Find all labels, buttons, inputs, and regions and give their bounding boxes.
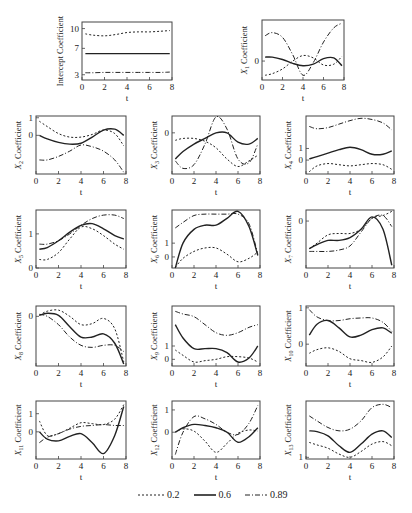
plot-frame: [306, 210, 394, 268]
x-tick-label: 2: [192, 176, 197, 186]
x-tick-label: 0: [34, 461, 39, 471]
x-tick-label: 8: [124, 461, 129, 471]
panel-x2: 02468t10X2 Coefficient: [13, 113, 129, 197]
legend-label: 0.89: [270, 489, 288, 500]
x-tick-label: 8: [124, 176, 129, 186]
x-tick-label: 2: [192, 270, 197, 280]
plot-frame: [36, 306, 126, 366]
x-tick-label: 2: [192, 461, 197, 471]
x-tick-label: 0: [170, 461, 175, 471]
series-line-0.2: [175, 138, 257, 166]
dotted-line-icon: [138, 492, 164, 498]
y-axis-label: X4 Coefficient: [283, 120, 294, 170]
panel-x12: 02468t10X12 Coefficient: [149, 401, 263, 482]
x-tick-label: 2: [102, 82, 107, 92]
y-tick-label: 0: [299, 339, 304, 349]
y-tick-label: 1: [299, 452, 304, 462]
y-tick-label: 0: [165, 252, 170, 262]
x-tick-label: 0: [304, 461, 309, 471]
y-axis-label: X7 Coefficient: [283, 214, 294, 264]
x-tick-label: 0: [170, 176, 175, 186]
y-tick-label: 1: [165, 238, 170, 248]
x-tick-label: 4: [348, 176, 353, 186]
y-axis-label: X8 Coefficient: [13, 311, 24, 361]
series-line-0.6: [39, 406, 123, 453]
y-tick-label: 1: [299, 143, 304, 153]
y-tick-label: 0: [299, 216, 304, 226]
x-tick-label: 6: [101, 270, 106, 280]
y-tick-label: 0: [29, 427, 34, 437]
y-tick-label: 0: [165, 128, 170, 138]
x-tick-label: 6: [321, 82, 326, 92]
panel-x5: 02468t10X5 Coefficient: [13, 210, 129, 291]
panel-x6: 02468t10X6 Coefficient: [149, 210, 263, 291]
x-tick-label: 8: [258, 270, 263, 280]
x-tick-label: 2: [56, 461, 61, 471]
x-tick-label: 6: [236, 461, 241, 471]
series-line-0.2: [309, 442, 392, 458]
x-tick-label: 2: [56, 368, 61, 378]
x-tick-label: 8: [392, 461, 397, 471]
x-tick-label: 8: [258, 368, 263, 378]
y-axis-label: X2 Coefficient: [13, 120, 24, 170]
series-line-0.6: [39, 313, 123, 364]
x-tick-label: 2: [326, 270, 331, 280]
x-tick-label: 4: [348, 461, 353, 471]
x-tick-label: 0: [170, 270, 175, 280]
series-line-0.89: [309, 118, 392, 130]
y-tick-label: 1: [29, 229, 34, 239]
x-tick-label: 0: [80, 82, 85, 92]
x-tick-label: 0: [304, 368, 309, 378]
y-tick-label: 0: [165, 354, 170, 364]
x-tick-label: 0: [170, 368, 175, 378]
y-axis-label: X9 Coefficient: [149, 311, 160, 361]
series-line-0.6: [175, 424, 257, 442]
plot-frame: [82, 22, 172, 80]
x-tick-label: 0: [34, 368, 39, 378]
panel-x13: 02468t1X13 Coefficient: [283, 401, 397, 482]
x-tick-label: 8: [124, 368, 129, 378]
x-axis-label: t: [215, 187, 218, 197]
series-line-0.6: [265, 57, 342, 66]
x-axis-label: t: [349, 187, 352, 197]
plot-frame: [306, 306, 394, 366]
x-axis-label: t: [80, 379, 83, 389]
x-tick-label: 4: [214, 270, 219, 280]
x-tick-label: 2: [192, 368, 197, 378]
x-tick-label: 8: [258, 176, 263, 186]
x-tick-label: 8: [124, 270, 129, 280]
x-axis-label: t: [302, 93, 305, 103]
x-axis-label: t: [215, 281, 218, 291]
legend-item-0.2: 0.2: [138, 489, 180, 500]
panel-intercept: 02468t3710Intercept Coefficient: [55, 15, 175, 103]
x-tick-label: 6: [236, 270, 241, 280]
legend-label: 0.6: [219, 489, 232, 500]
series-line-0.89: [175, 405, 257, 454]
series-line-0.2: [175, 247, 257, 267]
panel-x8: 02468t0X8 Coefficient: [13, 306, 129, 389]
y-tick-label: 0: [165, 427, 170, 437]
y-axis-label: X11 Coefficient: [13, 404, 24, 457]
legend-label: 0.2: [167, 489, 180, 500]
y-tick-label: 0: [299, 155, 304, 165]
x-axis-label: t: [349, 472, 352, 482]
plot-frame: [262, 20, 344, 80]
x-axis-label: t: [126, 93, 129, 103]
x-tick-label: 0: [260, 82, 265, 92]
x-axis-label: t: [215, 379, 218, 389]
x-axis-label: t: [349, 281, 352, 291]
y-tick-label: 1: [165, 341, 170, 351]
x-tick-label: 6: [236, 368, 241, 378]
series-line-0.2: [85, 31, 169, 36]
series-line-0.89: [175, 311, 257, 335]
y-tick-label: 7: [75, 43, 80, 53]
y-tick-label: 1: [165, 405, 170, 415]
y-tick-label: 1: [29, 409, 34, 419]
x-tick-label: 2: [56, 270, 61, 280]
x-tick-label: 2: [326, 368, 331, 378]
x-tick-label: 4: [125, 82, 130, 92]
series-line-0.2: [175, 429, 257, 452]
x-axis-label: t: [80, 281, 83, 291]
series-line-0.89: [175, 116, 257, 168]
x-tick-label: 6: [101, 176, 106, 186]
